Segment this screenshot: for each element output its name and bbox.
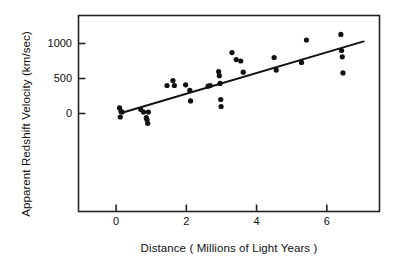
y-tick-label-text: 1000 xyxy=(36,37,72,49)
y-axis-ticks xyxy=(79,44,86,114)
y-tick-label-text: 500 xyxy=(36,72,72,84)
y-axis-title: Apparent Redshift Velocity (km/sec) xyxy=(16,8,36,240)
y-tick-label-text: 0 xyxy=(36,107,72,119)
x-axis-ticks xyxy=(116,205,327,212)
x-tick-label: 2 xyxy=(174,215,198,227)
y-tick-label: 0 xyxy=(36,107,72,121)
x-axis-title: Distance ( Millions of Light Years ) xyxy=(78,242,380,254)
x-tick-label: 0 xyxy=(104,215,128,227)
data-points xyxy=(117,32,346,126)
hubble-scatter-chart: Apparent Redshift Velocity (km/sec) Dist… xyxy=(0,0,399,272)
x-tick-label: 6 xyxy=(315,215,339,227)
y-tick-label: 500 xyxy=(36,72,72,86)
y-tick-label: 1000 xyxy=(36,37,72,51)
trend-line xyxy=(122,41,364,112)
x-tick-label: 4 xyxy=(245,215,269,227)
